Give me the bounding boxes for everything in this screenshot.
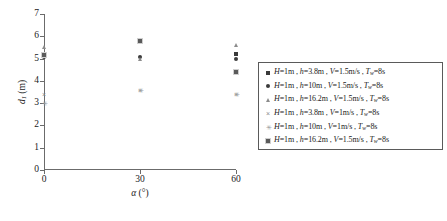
- marker-boxed-square-icon: [234, 70, 238, 74]
- legend-label: H=1m , h=10m , V=1m/s , Tw=8s: [274, 123, 377, 132]
- x-axis-title-unit: (°): [136, 188, 149, 198]
- data-point: ✳: [234, 92, 239, 97]
- marker-boxed-square-icon: [42, 53, 46, 57]
- y-tick-mark: [40, 125, 44, 126]
- y-axis-title-symbol: d: [17, 99, 27, 104]
- legend-marker: ✳: [263, 125, 273, 130]
- marker-boxed-square-icon: [138, 39, 142, 43]
- marker-boxed-square-icon: [266, 139, 270, 143]
- y-tick-label: 6: [34, 32, 39, 42]
- x-tick-label: 60: [231, 175, 241, 185]
- data-point: [234, 52, 238, 56]
- legend-item[interactable]: H=1m , h=16.2m , V=1.5m/s , Tw=8s: [263, 134, 440, 148]
- marker-star-icon: ✳: [266, 125, 271, 130]
- marker-triangle-icon: [234, 43, 238, 47]
- y-tick-label: 3: [34, 98, 39, 108]
- legend-marker: [263, 71, 273, 75]
- data-point: ✳: [138, 87, 143, 92]
- y-tick-label: 2: [34, 121, 39, 131]
- y-tick-mark: [40, 14, 44, 15]
- x-tick-label: 30: [135, 175, 145, 185]
- marker-square-icon: [234, 52, 238, 56]
- y-tick-mark: [40, 36, 44, 37]
- marker-cross-icon: ×: [42, 92, 47, 97]
- chart-page: 01234567 03060 ×××✳✳✳ d1 (m) α (°) H=1m …: [0, 0, 447, 221]
- marker-star-icon: ✳: [42, 101, 47, 106]
- y-tick-mark: [40, 81, 44, 82]
- y-tick-label: 1: [34, 143, 39, 153]
- x-axis-title: α (°): [131, 188, 149, 198]
- data-point: [234, 70, 238, 74]
- legend-marker: [263, 139, 273, 143]
- data-point: [42, 45, 46, 49]
- y-tick-label: 5: [34, 54, 39, 64]
- marker-cross-icon: ×: [266, 111, 271, 116]
- data-point: [42, 53, 46, 57]
- legend-marker: ×: [263, 111, 273, 116]
- plot-axes-frame: 01234567 03060 ×××✳✳✳ d1 (m) α (°): [44, 14, 236, 170]
- legend-item[interactable]: H=1m , h=16.2m , V=1.5m/s , Tw=8s: [263, 93, 440, 107]
- y-tick-label: 4: [34, 76, 39, 86]
- y-axis-title-unit: (m): [17, 80, 27, 96]
- data-point: ✳: [42, 101, 47, 106]
- marker-star-icon: ✳: [234, 92, 239, 97]
- legend-label: H=1m , h=3.8m , V=1m/s , Tw=8s: [274, 109, 379, 118]
- chart-legend: H=1m , h=3.8m , V=1.5m/s , Tw=8sH=1m , h…: [258, 62, 443, 150]
- data-point: [234, 43, 238, 47]
- y-axis-title-subscript: 1: [20, 96, 27, 99]
- data-point: [138, 57, 142, 61]
- legend-label: H=1m , h=16.2m , V=1.5m/s , Tw=8s: [274, 95, 389, 104]
- marker-star-icon: ✳: [138, 87, 143, 92]
- y-tick-mark: [40, 148, 44, 149]
- legend-item[interactable]: H=1m , h=10m , V=1.5m/s , Tw=8s: [263, 80, 440, 94]
- legend-label: H=1m , h=10m , V=1.5m/s , Tw=8s: [274, 82, 383, 91]
- legend-item[interactable]: ×H=1m , h=3.8m , V=1m/s , Tw=8s: [263, 107, 440, 121]
- marker-circle-icon: [234, 57, 238, 61]
- legend-marker: [263, 98, 273, 102]
- data-point: [138, 39, 142, 43]
- data-point: ×: [42, 92, 47, 97]
- marker-triangle-icon: [138, 57, 142, 61]
- marker-circle-icon: [266, 84, 270, 88]
- legend-item[interactable]: H=1m , h=3.8m , V=1.5m/s , Tw=8s: [263, 66, 440, 80]
- y-axis-title: d1 (m): [17, 80, 27, 104]
- y-tick-label: 7: [34, 9, 39, 19]
- legend-item[interactable]: ✳H=1m , h=10m , V=1m/s , Tw=8s: [263, 120, 440, 134]
- y-tick-label: 0: [34, 165, 39, 175]
- legend-label: H=1m , h=16.2m , V=1.5m/s , Tw=8s: [274, 136, 389, 145]
- plot-region: 01234567 03060 ×××✳✳✳ d1 (m) α (°): [0, 0, 252, 221]
- data-point: [234, 57, 238, 61]
- legend-label: H=1m , h=3.8m , V=1.5m/s , Tw=8s: [274, 68, 385, 77]
- x-tick-label: 0: [42, 175, 47, 185]
- marker-triangle-icon: [266, 98, 270, 102]
- legend-marker: [263, 84, 273, 88]
- marker-square-icon: [266, 71, 270, 75]
- marker-triangle-icon: [42, 45, 46, 49]
